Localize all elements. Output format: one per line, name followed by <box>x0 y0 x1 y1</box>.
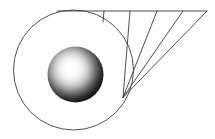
figure-canvas: Sphere within circle with converging ray… <box>0 0 215 139</box>
shaded-sphere <box>48 47 104 103</box>
geometry-diagram: Sphere within circle with converging ray… <box>0 0 215 139</box>
